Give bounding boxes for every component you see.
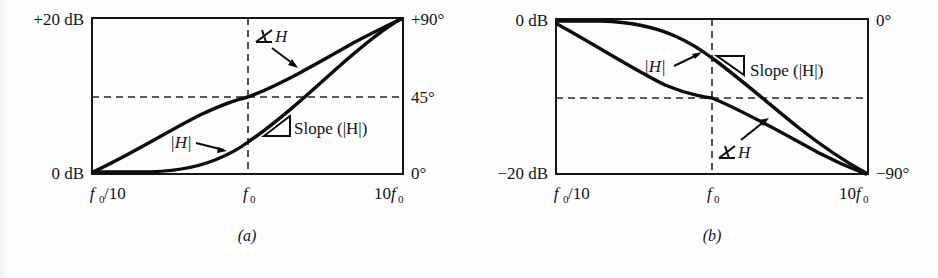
panel-b-caption: (b) [703, 227, 722, 245]
svg-text:/10: /10 [104, 184, 126, 203]
panel-a-caption: (a) [238, 227, 257, 245]
panel-b-phase-label: H [719, 143, 752, 162]
svg-text:0: 0 [398, 193, 404, 205]
svg-text:f: f [554, 184, 561, 203]
panel-a-magnitude-label-text: |H| [170, 133, 192, 152]
svg-text:f: f [391, 184, 398, 203]
panel-b-phase-label-arrow [741, 118, 769, 140]
svg-text:0: 0 [714, 193, 720, 205]
panel-a-magnitude-label-arrow [196, 143, 227, 153]
panel-a-phase-label: H [256, 27, 289, 46]
panel-b-slope-label: Slope (|H|) [750, 61, 823, 80]
panel-b-phase-bottom-label: −90° [876, 164, 909, 183]
panel-b-xtick-f0-over-10: f 0 /10 [554, 184, 590, 205]
svg-text:10: 10 [374, 184, 391, 203]
panel-a-phase-label-text: H [274, 27, 289, 46]
bode-plot-figure: H |H| Slope (|H|) +20 dB 0 dB +90° 45° 0… [0, 0, 938, 278]
panel-b-phase-top-label: 0° [876, 11, 891, 30]
panel-b-mag-bottom-label: −20 dB [497, 164, 548, 183]
svg-text:10: 10 [839, 184, 856, 203]
panel-a-phase-label-arrow [272, 48, 298, 68]
panel-a-xtick-f0: f 0 [243, 184, 256, 205]
panel-a: H |H| Slope (|H|) +20 dB 0 dB +90° 45° 0… [0, 0, 469, 278]
panel-a-xtick-10f0: 10 f 0 [374, 184, 404, 205]
panel-b-xtick-10f0: 10 f 0 [839, 184, 869, 205]
panel-b-phase-label-text: H [737, 143, 752, 162]
svg-text:f: f [707, 184, 714, 203]
panel-a-phase-curve [93, 19, 401, 172]
svg-text:0: 0 [863, 193, 869, 205]
panel-b-magnitude-label-arrow [674, 52, 702, 66]
panel-a-phase-mid-label: 45° [411, 88, 435, 107]
panel-a-xtick-f0-over-10: f 0 /10 [90, 184, 126, 205]
svg-text:f: f [243, 184, 250, 203]
panel-b-xtick-f0: f 0 [707, 184, 720, 205]
panel-a-phase-bottom-label: 0° [411, 164, 426, 183]
panel-a-mag-top-label: +20 dB [33, 10, 84, 29]
svg-text:f: f [90, 184, 97, 203]
panel-b-magnitude-label-text: |H| [644, 57, 666, 76]
panel-b-mag-top-label: 0 dB [515, 11, 548, 30]
svg-text:f: f [856, 184, 863, 203]
panel-a-mag-bottom-label: 0 dB [51, 164, 84, 183]
svg-text:/10: /10 [568, 184, 590, 203]
panel-a-slope-label: Slope (|H|) [294, 119, 367, 138]
panel-a-phase-top-label: +90° [411, 10, 444, 29]
svg-text:0: 0 [250, 193, 256, 205]
angle-icon [256, 30, 272, 42]
panel-b: |H| Slope (|H|) H 0 dB −20 dB 0° −90° f … [469, 0, 938, 278]
angle-icon [719, 146, 735, 158]
